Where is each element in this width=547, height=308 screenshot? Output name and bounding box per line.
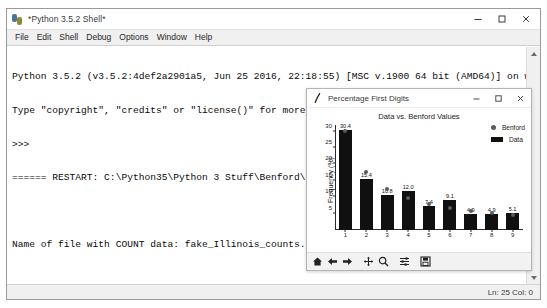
minimize-icon[interactable] (465, 90, 487, 107)
shell-line: Python 3.5.2 (v3.5.2:4def2a2901a5, Jun 2… (12, 71, 523, 82)
chart-bar (443, 200, 456, 230)
chart-x-tick-mark (470, 230, 471, 232)
menu-item-debug[interactable]: Debug (82, 30, 115, 45)
menu-item-help[interactable]: Help (191, 30, 216, 45)
chart-x-tick-mark (408, 230, 409, 232)
chart-y-tick-mark (333, 196, 335, 197)
chart-y-tick-mark (333, 163, 335, 164)
chart-x-tick-mark (512, 230, 513, 232)
plot-window-title: Percentage First Digits (328, 94, 465, 103)
chart-y-tick-label: 15 (325, 172, 335, 178)
idle-titlebar[interactable]: *Python 3.5.2 Shell* (7, 9, 540, 30)
legend-marker-dot-icon (491, 125, 496, 130)
chart-benford-point (427, 202, 431, 206)
chart-x-tick-mark (387, 230, 388, 232)
save-disk-icon[interactable] (418, 255, 432, 269)
chart-benford-point (469, 209, 473, 213)
chart-y-tick-mark (333, 179, 335, 180)
chart-y-tick-label: 30 (325, 123, 335, 129)
chart-bar (423, 206, 436, 230)
plot-titlebar[interactable]: Percentage First Digits (307, 89, 531, 108)
chart-bar-value-label: 5.1 (509, 206, 517, 212)
menu-item-options[interactable]: Options (115, 30, 152, 45)
maximize-icon[interactable] (490, 10, 514, 29)
chart-bar (464, 214, 477, 230)
chart-x-tick-mark (429, 230, 430, 232)
close-icon[interactable] (514, 10, 538, 29)
matplotlib-toolbar (307, 252, 531, 270)
chart-canvas[interactable]: Data vs. Benford Values Frequency (%) 51… (307, 108, 531, 252)
zoom-magnifier-icon[interactable] (376, 255, 390, 269)
chart-x-tick-mark (345, 230, 346, 232)
idle-statusbar: Ln: 25 Col: 0 (7, 284, 540, 299)
chart-benford-point (406, 196, 410, 200)
legend-marker-bar-icon (491, 137, 503, 142)
menu-item-window[interactable]: Window (153, 30, 191, 45)
back-arrow-icon[interactable] (325, 255, 339, 269)
minimize-icon[interactable] (466, 10, 490, 29)
matplotlib-figure-window: Percentage First Digits Data vs. Benford… (306, 88, 532, 271)
forward-arrow-icon[interactable] (340, 255, 354, 269)
chart-y-tick-mark (333, 130, 335, 131)
menu-item-edit[interactable]: Edit (33, 30, 56, 45)
home-icon[interactable] (310, 255, 324, 269)
menu-item-shell[interactable]: Shell (55, 30, 82, 45)
legend-entry-data: Data (491, 136, 525, 143)
chart-benford-point (343, 129, 347, 133)
chart-legend: Benford Data (491, 124, 525, 143)
chart-bar (339, 130, 352, 230)
chart-bar (381, 195, 394, 230)
chart-benford-point (490, 211, 494, 215)
idle-menubar: File Edit Shell Debug Options Window Hel… (7, 30, 540, 46)
idle-window-title: *Python 3.5.2 Shell* (28, 14, 466, 24)
chart-title: Data vs. Benford Values (307, 112, 531, 121)
chart-benford-point (364, 170, 368, 174)
maximize-icon[interactable] (487, 90, 509, 107)
chart-y-tick-mark (333, 212, 335, 213)
legend-label: Data (509, 136, 523, 143)
chart-benford-point (385, 187, 389, 191)
chart-bar (485, 214, 498, 230)
status-line-column: Ln: 25 Col: 0 (488, 288, 533, 297)
chart-bar (360, 179, 373, 230)
menu-item-file[interactable]: File (11, 30, 33, 45)
idle-window-controls (466, 9, 538, 29)
chart-benford-point (448, 206, 452, 210)
chart-y-tick-label: 25 (325, 139, 335, 145)
subplot-config-icon[interactable] (397, 255, 411, 269)
chart-bar-value-label: 12.0 (403, 184, 414, 190)
legend-entry-benford: Benford (491, 124, 525, 131)
matplotlib-icon (313, 93, 322, 103)
chart-y-tick-mark (333, 146, 335, 147)
scroll-up-arrow-icon[interactable] (527, 47, 540, 60)
chart-x-tick-mark (366, 230, 367, 232)
chart-y-tick-label: 5 (329, 205, 335, 211)
chart-x-tick-mark (491, 230, 492, 232)
chart-y-tick-label: 10 (325, 188, 335, 194)
chart-x-tick-mark (449, 230, 450, 232)
chart-y-tick-label: 20 (325, 155, 335, 161)
shell-line-blank (12, 273, 523, 284)
scroll-down-arrow-icon[interactable] (527, 271, 540, 284)
python-logo-icon (12, 14, 23, 25)
chart-bar-value-label: 9.1 (446, 193, 454, 199)
pan-move-icon[interactable] (361, 255, 375, 269)
chart-benford-point (511, 213, 515, 217)
close-icon[interactable] (509, 90, 531, 107)
legend-label: Benford (502, 124, 525, 131)
